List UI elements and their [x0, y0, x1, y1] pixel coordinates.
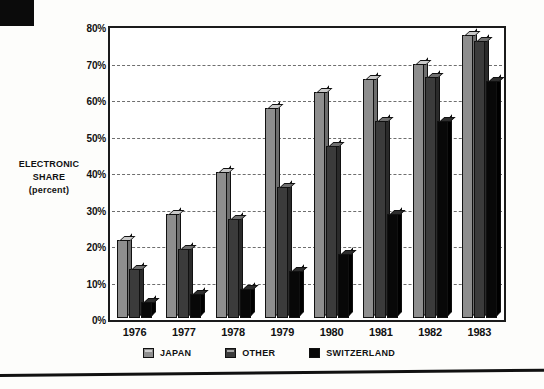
bar-face — [277, 187, 288, 318]
bar-japan-1976[interactable] — [117, 240, 128, 318]
bar-top-cap — [476, 37, 493, 42]
legend-label: JAPAN — [160, 348, 191, 358]
bar-top-cap — [439, 117, 456, 122]
bar-group-1983 — [457, 30, 506, 318]
bar-top-cap — [131, 265, 148, 270]
bar-japan-1977[interactable] — [166, 214, 177, 318]
bar-top-cap — [267, 104, 284, 109]
bar-face — [326, 146, 337, 318]
bar-switzerland-1982[interactable] — [437, 121, 448, 318]
bar-switzerland-1977[interactable] — [190, 294, 201, 318]
bar-group-1981 — [358, 30, 407, 318]
bar-other-1983[interactable] — [474, 41, 485, 318]
x-tick-1979: 1979 — [271, 326, 295, 338]
y-tick-0%: 0% — [92, 315, 106, 326]
bar-top-cap — [218, 168, 235, 173]
bar-top-cap — [415, 60, 432, 65]
legend-item-japan[interactable]: JAPAN — [143, 348, 191, 358]
bar-switzerland-1976[interactable] — [141, 302, 152, 318]
x-tick-1982: 1982 — [418, 326, 442, 338]
x-tick-1978: 1978 — [221, 326, 245, 338]
bar-face — [387, 214, 398, 318]
bar-top-cap — [242, 285, 259, 290]
bar-face — [338, 254, 349, 318]
bar-top-cap — [464, 31, 481, 36]
y-tick-40%: 40% — [87, 169, 106, 180]
bar-side — [349, 248, 353, 316]
y-tick-10%: 10% — [87, 278, 106, 289]
bar-switzerland-1980[interactable] — [338, 254, 349, 318]
bar-switzerland-1978[interactable] — [240, 289, 251, 318]
register-mark — [0, 0, 34, 26]
bar-group-1982 — [408, 30, 457, 318]
y-tick-50%: 50% — [87, 132, 106, 143]
bar-top-cap — [168, 210, 185, 215]
bar-other-1981[interactable] — [375, 121, 386, 318]
bar-top-cap — [291, 267, 308, 272]
y-tick-30%: 30% — [87, 205, 106, 216]
y-tick-70%: 70% — [87, 59, 106, 70]
bar-other-1977[interactable] — [178, 249, 189, 318]
bar-face — [240, 289, 251, 318]
swatch-other-icon — [225, 348, 236, 358]
bar-face — [265, 108, 276, 318]
bar-top-cap — [143, 298, 160, 303]
x-tick-1981: 1981 — [369, 326, 393, 338]
bar-chart — [108, 26, 506, 322]
bar-group-1978 — [211, 30, 260, 318]
bar-other-1982[interactable] — [425, 77, 436, 318]
x-tick-1976: 1976 — [123, 326, 147, 338]
bar-face — [178, 249, 189, 318]
bar-top-cap — [119, 236, 136, 241]
swatch-japan-icon — [143, 348, 154, 358]
bar-other-1979[interactable] — [277, 187, 288, 318]
bar-japan-1980[interactable] — [314, 92, 325, 318]
bar-side — [398, 208, 402, 316]
bar-japan-1979[interactable] — [265, 108, 276, 318]
bar-side — [448, 114, 452, 316]
bar-other-1976[interactable] — [129, 269, 140, 318]
legend-item-other[interactable]: OTHER — [225, 348, 275, 358]
page-rule — [0, 369, 544, 377]
bar-top-cap — [488, 77, 505, 82]
legend-label: SWITZERLAND — [326, 348, 395, 358]
bar-other-1980[interactable] — [326, 146, 337, 318]
bar-japan-1981[interactable] — [363, 79, 374, 318]
x-axis-tick-labels: 19761977197819791980198119821983 — [108, 326, 506, 344]
bar-face — [216, 172, 227, 318]
bar-face — [437, 121, 448, 318]
y-tick-60%: 60% — [87, 96, 106, 107]
bar-face — [462, 35, 473, 318]
bar-other-1978[interactable] — [228, 219, 239, 318]
bar-top-cap — [230, 215, 247, 220]
bar-face — [425, 77, 436, 318]
bar-face — [474, 41, 485, 318]
bar-japan-1983[interactable] — [462, 35, 473, 318]
plot-frame — [108, 26, 506, 322]
bar-top-cap — [365, 75, 382, 80]
bar-face — [363, 79, 374, 318]
bar-face — [413, 64, 424, 318]
bar-face — [190, 294, 201, 318]
bar-face — [117, 240, 128, 318]
bar-top-cap — [279, 183, 296, 188]
bar-side — [497, 74, 501, 316]
legend-item-switzerland[interactable]: SWITZERLAND — [309, 348, 395, 358]
bar-group-1977 — [161, 30, 210, 318]
bar-face — [314, 92, 325, 318]
y-tick-20%: 20% — [87, 242, 106, 253]
bar-switzerland-1981[interactable] — [387, 214, 398, 318]
bar-face — [129, 269, 140, 318]
x-tick-1980: 1980 — [320, 326, 344, 338]
bar-face — [228, 219, 239, 318]
bar-switzerland-1979[interactable] — [289, 271, 300, 318]
bar-japan-1978[interactable] — [216, 172, 227, 318]
bar-switzerland-1983[interactable] — [486, 81, 497, 318]
swatch-switzerland-icon — [309, 348, 320, 358]
legend-label: OTHER — [242, 348, 275, 358]
y-axis-tick-labels: 0%10%20%30%40%50%60%70%80% — [66, 18, 106, 330]
bar-top-cap — [340, 250, 357, 255]
bar-japan-1982[interactable] — [413, 64, 424, 318]
bar-face — [141, 302, 152, 318]
chart-legend: JAPANOTHERSWITZERLAND — [0, 348, 538, 358]
